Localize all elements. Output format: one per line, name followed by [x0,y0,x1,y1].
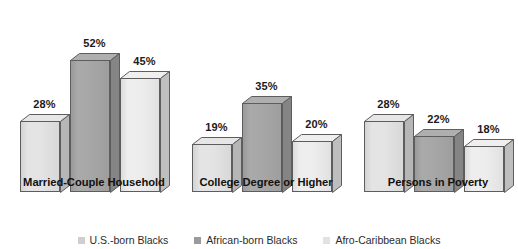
bar-value-label: 28% [377,98,400,110]
bar-group-college-degree-or-higher: 19% 35% 20% College Degree or Higher [186,12,346,192]
legend-swatch-icon-0 [78,237,85,244]
legend-label-1: African-born Blacks [206,234,297,246]
bar-front-face [120,78,160,192]
group-label-0: Married-Couple Household [23,176,165,188]
chart-legend: U.S.-born Blacks African-born Blacks Afr… [0,234,518,246]
legend-swatch-icon-2 [323,237,330,244]
legend-label-0: U.S.-born Blacks [90,234,169,246]
group-label-2: Persons in Poverty [388,176,488,188]
bar-front-face [70,60,110,192]
bar-group-persons-in-poverty: 28% 22% 18% Persons in Poverty [358,12,518,192]
bar-value-label: 22% [427,113,450,125]
bar-value-label: 35% [255,80,278,92]
bar-chart: 28% 52% 45% Married-Couple Household 19%… [0,0,518,249]
bar-value-label: 18% [477,123,500,135]
bar-g0-s1[interactable]: 52% [70,60,110,192]
bar-g0-s2[interactable]: 45% [120,78,160,192]
legend-swatch-icon-1 [194,237,201,244]
group-label-1: College Degree or Higher [199,176,332,188]
plot-area: 28% 52% 45% Married-Couple Household 19%… [0,0,518,218]
legend-label-2: Afro-Caribbean Blacks [335,234,440,246]
legend-item-us-born-blacks[interactable]: U.S.-born Blacks [78,234,169,246]
bar-value-label: 20% [305,118,328,130]
bar-value-label: 19% [205,121,228,133]
legend-item-african-born-blacks[interactable]: African-born Blacks [194,234,297,246]
bar-value-label: 28% [33,98,56,110]
bar-group-married-couple-household: 28% 52% 45% Married-Couple Household [14,12,174,192]
bar-value-label: 45% [133,55,156,67]
bar-value-label: 52% [83,37,106,49]
legend-item-afro-caribbean-blacks[interactable]: Afro-Caribbean Blacks [323,234,440,246]
